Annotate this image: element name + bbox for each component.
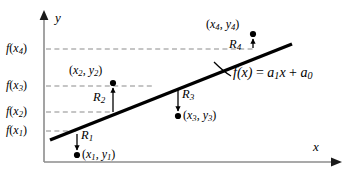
y-tick-label-fx2: f(x2) bbox=[6, 105, 27, 119]
p2-close: ) bbox=[98, 63, 102, 77]
data-point-label-p2: (x2, y2) bbox=[69, 64, 102, 78]
figure-canvas bbox=[0, 0, 357, 178]
eq-equals: = bbox=[256, 65, 264, 80]
data-point-label-p4: (x4, y4) bbox=[206, 18, 239, 32]
fitted-line bbox=[50, 44, 292, 140]
y-axis-arrowhead bbox=[40, 10, 49, 20]
regression-figure: y x f(x4) f(x3) f(x2) f(x1) (x1, y1) (x2… bbox=[0, 0, 357, 178]
eq-a0: a bbox=[301, 65, 308, 80]
p3-comma: , bbox=[197, 108, 200, 122]
eq-x: x bbox=[279, 65, 285, 80]
residual-label-R2: R2 bbox=[93, 91, 105, 105]
y-tick-label-fx1: f(x1) bbox=[6, 124, 27, 138]
residual-label-R3: R3 bbox=[182, 88, 194, 102]
data-point-p2 bbox=[110, 80, 116, 86]
R1-sub: 1 bbox=[89, 133, 94, 143]
R2-sub: 2 bbox=[101, 95, 106, 105]
p4-comma: , bbox=[220, 17, 223, 31]
residual-label-R1: R1 bbox=[81, 129, 93, 143]
p2-comma: , bbox=[83, 63, 86, 77]
R1-letter: R bbox=[81, 128, 89, 142]
residual-label-R4: R4 bbox=[229, 38, 241, 52]
p1-close: ) bbox=[111, 147, 115, 161]
R4-sub: 4 bbox=[237, 42, 242, 52]
R4-letter: R bbox=[229, 37, 237, 51]
y-axis-label: y bbox=[55, 11, 61, 24]
x-axis-label: x bbox=[313, 140, 319, 153]
data-point-label-p3: (x3, y3) bbox=[183, 109, 216, 123]
eq-plus: + bbox=[289, 65, 297, 80]
R3-sub: 3 bbox=[190, 92, 195, 102]
y-tick-label-fx4: f(x4) bbox=[6, 42, 27, 56]
data-point-p4 bbox=[250, 31, 256, 37]
data-point-p3 bbox=[175, 113, 181, 119]
eq-a0-sub: 0 bbox=[308, 70, 313, 81]
R2-letter: R bbox=[93, 90, 101, 104]
R3-letter: R bbox=[182, 87, 190, 101]
p3-close: ) bbox=[212, 108, 216, 122]
y-tick-label-fx3: f(x3) bbox=[6, 79, 27, 93]
p4-close: ) bbox=[235, 17, 239, 31]
p1-comma: , bbox=[96, 147, 99, 161]
data-point-label-p1: (x1, y1) bbox=[82, 148, 115, 162]
eq-fx: f(x) bbox=[233, 65, 252, 80]
x-axis-arrowhead bbox=[331, 157, 342, 166]
fit-line-equation-label: f(x) = a1x + a0 bbox=[233, 66, 313, 81]
data-point-p1 bbox=[74, 152, 80, 158]
eq-fn: f(x) bbox=[233, 65, 252, 80]
